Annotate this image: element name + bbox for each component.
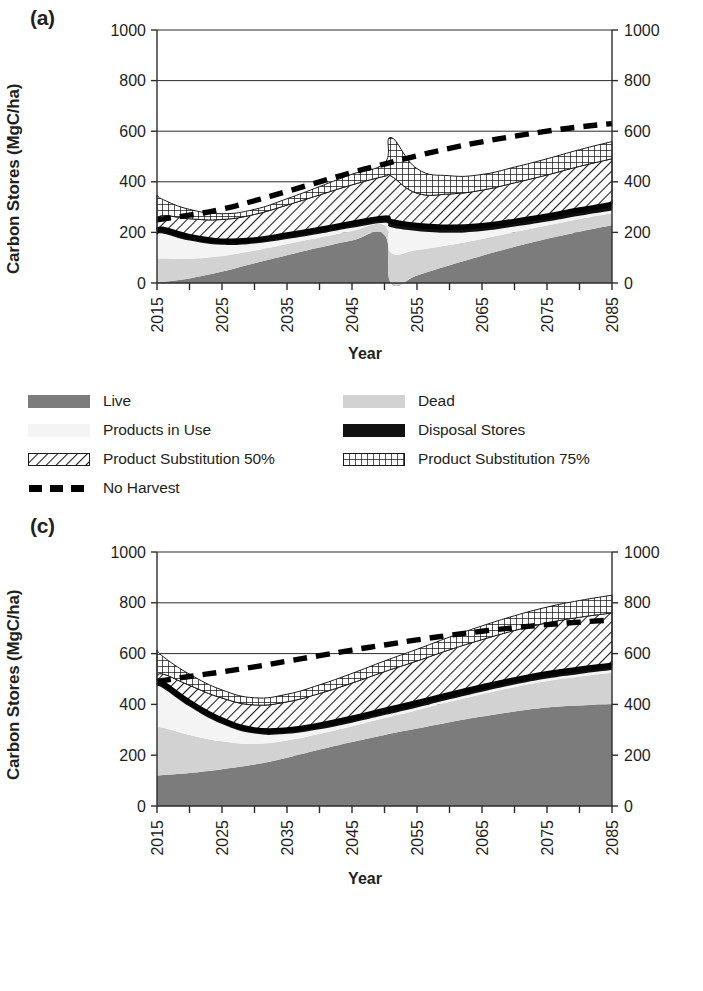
legend-label-products-in-use: Products in Use (103, 421, 211, 439)
legend-swatch-product-substitution-50 (28, 453, 90, 466)
x-tick-label-2075: 2075 (539, 820, 556, 856)
x-axis-ticks: 20152025203520452055206520752085 (149, 806, 621, 856)
panel-a-x-axis-title: Year (305, 345, 425, 363)
y-tick-label-left-1000: 1000 (110, 544, 146, 561)
x-tick-label-2075: 2075 (539, 297, 556, 333)
y-tick-label-right-400: 400 (624, 696, 651, 713)
legend-item-live-a: Live (28, 388, 131, 414)
y-tick-label-left-800: 800 (119, 594, 146, 611)
legend-swatch-products-in-use (28, 424, 90, 437)
x-tick-label-2065: 2065 (474, 297, 491, 333)
legend-swatch-product-substitution-75 (343, 453, 405, 466)
y-tick-label-left-200: 200 (119, 224, 146, 241)
y-tick-label-right-200: 200 (624, 224, 651, 241)
legend-item-product-substitution-50-a: Product Substitution 50% (28, 446, 275, 472)
y-tick-label-right-200: 200 (624, 747, 651, 764)
x-tick-label-2025: 2025 (214, 297, 231, 333)
legend-label-product-substitution-50: Product Substitution 50% (103, 450, 275, 468)
y-tick-label-right-1000: 1000 (624, 544, 660, 561)
y-tick-label-left-400: 400 (119, 173, 146, 190)
x-tick-label-2015: 2015 (149, 820, 166, 856)
stacked-areas (157, 595, 612, 806)
legend-item-dead-a: Dead (343, 388, 455, 414)
legend-swatch-live (28, 395, 90, 408)
y-tick-label-right-400: 400 (624, 173, 651, 190)
y-tick-label-right-0: 0 (624, 275, 633, 292)
figure-root: (a) Carbon Stores (MgC/ha) Year 00200200… (0, 0, 703, 991)
legend-swatch-disposal-stores (343, 424, 405, 437)
legend-item-disposal-stores-a: Disposal Stores (343, 417, 525, 443)
x-tick-label-2055: 2055 (409, 820, 426, 856)
x-tick-label-2065: 2065 (474, 820, 491, 856)
y-tick-label-left-0: 0 (137, 798, 146, 815)
legend-swatch-no-harvest (28, 482, 90, 495)
panel-c-svg: 0020020040040060060080080010001000201520… (0, 510, 703, 870)
legend-label-disposal-stores: Disposal Stores (418, 421, 525, 439)
panel-a-legend: LiveDeadProducts in UseDisposal StoresPr… (0, 388, 703, 503)
panel-a-svg: 0020020040040060060080080010001000201520… (0, 0, 703, 345)
panel-c-x-axis-title: Year (305, 870, 425, 888)
y-tick-label-left-800: 800 (119, 72, 146, 89)
x-tick-label-2055: 2055 (409, 297, 426, 333)
legend-swatch-dead (343, 395, 405, 408)
legend-label-product-substitution-75: Product Substitution 75% (418, 450, 590, 468)
x-axis-ticks: 20152025203520452055206520752085 (149, 283, 621, 333)
x-tick-label-2085: 2085 (604, 297, 621, 333)
y-tick-label-left-600: 600 (119, 123, 146, 140)
x-tick-label-2035: 2035 (279, 820, 296, 856)
y-tick-label-left-400: 400 (119, 696, 146, 713)
y-tick-label-left-0: 0 (137, 275, 146, 292)
panel-a: (a) Carbon Stores (MgC/ha) Year 00200200… (0, 0, 703, 510)
y-tick-label-right-800: 800 (624, 72, 651, 89)
x-tick-label-2035: 2035 (279, 297, 296, 333)
y-tick-label-right-800: 800 (624, 594, 651, 611)
y-tick-label-left-1000: 1000 (110, 22, 146, 39)
x-tick-label-2015: 2015 (149, 297, 166, 333)
x-tick-label-2045: 2045 (344, 297, 361, 333)
y-tick-label-right-1000: 1000 (624, 22, 660, 39)
stacked-areas (157, 137, 612, 286)
y-tick-label-right-600: 600 (624, 645, 651, 662)
panel-c-plot: 0020020040040060060080080010001000201520… (0, 510, 703, 870)
y-tick-label-left-200: 200 (119, 747, 146, 764)
legend-item-no-harvest-a: No Harvest (28, 475, 180, 501)
legend-item-products-in-use-a: Products in Use (28, 417, 211, 443)
legend-label-dead: Dead (418, 392, 455, 410)
y-tick-label-right-0: 0 (624, 798, 633, 815)
legend-label-no-harvest: No Harvest (103, 479, 180, 497)
x-tick-label-2085: 2085 (604, 820, 621, 856)
panel-a-plot: 0020020040040060060080080010001000201520… (0, 0, 703, 345)
x-tick-label-2025: 2025 (214, 820, 231, 856)
panel-c: (c) Carbon Stores (MgC/ha) Year 00200200… (0, 510, 703, 991)
x-tick-label-2045: 2045 (344, 820, 361, 856)
y-tick-label-left-600: 600 (119, 645, 146, 662)
y-tick-label-right-600: 600 (624, 123, 651, 140)
legend-label-live: Live (103, 392, 131, 410)
legend-item-product-substitution-75-a: Product Substitution 75% (343, 446, 590, 472)
